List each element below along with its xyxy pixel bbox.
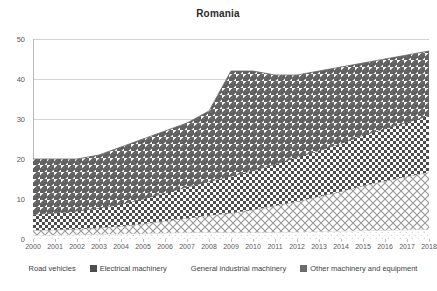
x-tick-2001: [55, 239, 56, 242]
x-tick-2002: [77, 239, 78, 242]
x-tick-label-2010: 2010: [245, 243, 261, 250]
legend-item-general-industrial-machinery[interactable]: General industrial machinery: [181, 264, 286, 273]
x-tick-label-2000: 2000: [25, 243, 41, 250]
x-tick-2014: [341, 239, 342, 242]
x-tick-label-2007: 2007: [179, 243, 195, 250]
plot-area: [33, 39, 429, 239]
legend-label-other-machinery-and-equipment: Other machinery and equipment: [310, 264, 417, 273]
x-tick-label-2012: 2012: [289, 243, 305, 250]
legend-swatch-road-vehicles: [19, 265, 26, 272]
legend-label-road-vehicles: Road vehicles: [29, 264, 76, 273]
legend-label-electrical-machinery: Electrical machinery: [100, 264, 167, 273]
y-tick-label-20: 20: [17, 155, 25, 164]
x-tick-2003: [99, 239, 100, 242]
y-tick-label-50: 50: [17, 35, 25, 44]
y-axis-labels: 01020304050: [0, 39, 29, 239]
x-tick-label-2009: 2009: [223, 243, 239, 250]
x-tick-2018: [429, 239, 430, 242]
x-tick-2008: [209, 239, 210, 242]
x-tick-label-2006: 2006: [157, 243, 173, 250]
x-tick-2010: [253, 239, 254, 242]
x-tick-label-2013: 2013: [311, 243, 327, 250]
x-tick-2013: [319, 239, 320, 242]
chart-title: Romania: [0, 8, 436, 19]
y-tick-label-40: 40: [17, 75, 25, 84]
legend-item-other-machinery-and-equipment[interactable]: Other machinery and equipment: [300, 264, 417, 273]
x-tick-label-2015: 2015: [355, 243, 371, 250]
x-tick-label-2002: 2002: [69, 243, 85, 250]
stacked-area-series: [33, 39, 429, 239]
x-tick-2007: [187, 239, 188, 242]
legend-swatch-other-machinery-and-equipment: [300, 265, 307, 272]
x-tick-label-2018: 2018: [421, 243, 437, 250]
legend-swatch-electrical-machinery: [90, 265, 97, 272]
x-tick-2005: [143, 239, 144, 242]
x-tick-2016: [385, 239, 386, 242]
y-tick-label-30: 30: [17, 115, 25, 124]
x-tick-2006: [165, 239, 166, 242]
legend-item-electrical-machinery[interactable]: Electrical machinery: [90, 264, 167, 273]
x-tick-label-2008: 2008: [201, 243, 217, 250]
x-tick-2012: [297, 239, 298, 242]
x-tick-label-2017: 2017: [399, 243, 415, 250]
x-tick-label-2003: 2003: [91, 243, 107, 250]
x-tick-2017: [407, 239, 408, 242]
x-axis-labels: 2000200120022003200420052006200720082009…: [33, 243, 429, 255]
legend-item-road-vehicles[interactable]: Road vehicles: [19, 264, 76, 273]
x-tick-2004: [121, 239, 122, 242]
x-tick-2011: [275, 239, 276, 242]
chart-legend: Road vehicles Electrical machinery Gener…: [0, 264, 436, 273]
x-tick-2009: [231, 239, 232, 242]
x-tick-label-2011: 2011: [267, 243, 282, 250]
x-tick-label-2001: 2001: [47, 243, 63, 250]
legend-swatch-general-industrial-machinery: [181, 265, 188, 272]
x-tick-label-2016: 2016: [377, 243, 393, 250]
x-tick-label-2005: 2005: [135, 243, 151, 250]
x-tick-2000: [33, 239, 34, 242]
x-tick-2015: [363, 239, 364, 242]
legend-label-general-industrial-machinery: General industrial machinery: [191, 264, 286, 273]
x-tick-label-2004: 2004: [113, 243, 129, 250]
x-tick-label-2014: 2014: [333, 243, 349, 250]
y-tick-label-10: 10: [17, 195, 25, 204]
